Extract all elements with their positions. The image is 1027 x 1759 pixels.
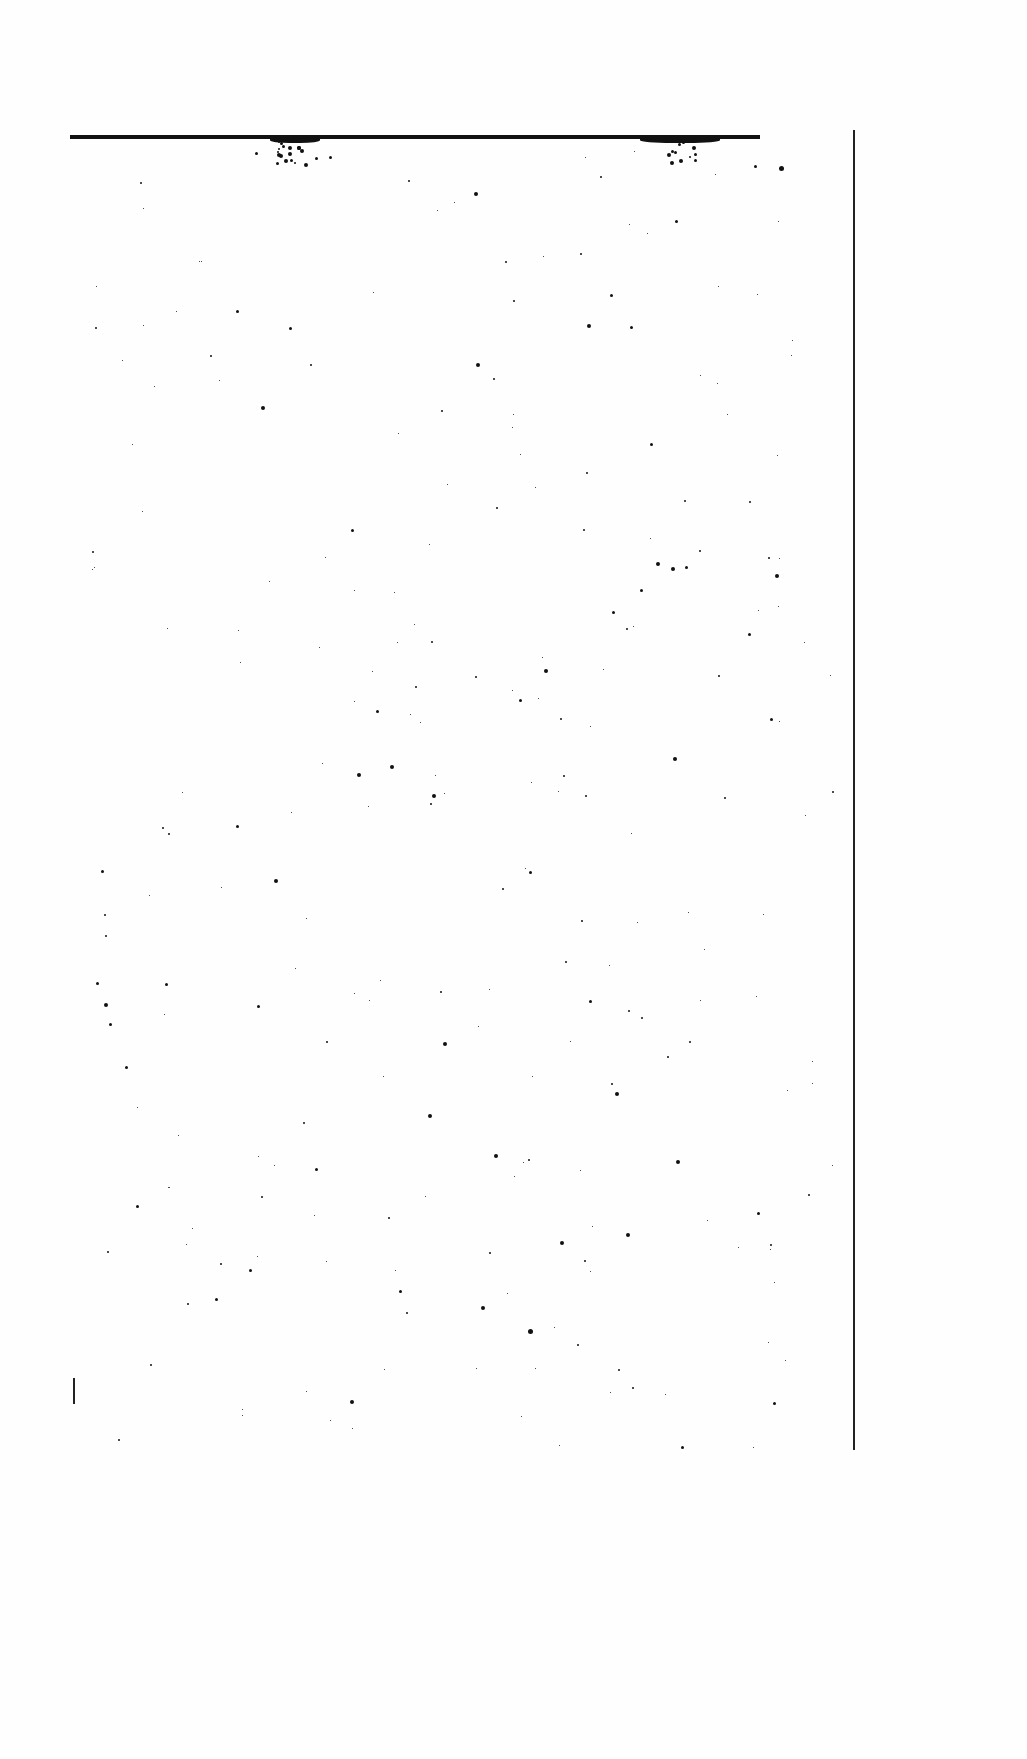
noise-speck xyxy=(261,1196,263,1198)
noise-speck xyxy=(538,698,539,699)
noise-speck xyxy=(560,1241,564,1245)
noise-speck xyxy=(368,806,369,807)
noise-speck xyxy=(168,833,170,835)
noise-speck xyxy=(700,375,701,376)
noise-speck xyxy=(519,699,522,702)
noise-speck xyxy=(529,871,532,874)
noise-speck xyxy=(398,433,399,434)
noise-speck xyxy=(414,624,415,625)
noise-speck xyxy=(631,833,632,834)
noise-speck xyxy=(315,157,318,160)
noise-speck xyxy=(95,327,97,329)
noise-speck xyxy=(351,529,354,532)
noise-speck xyxy=(650,538,651,539)
noise-speck xyxy=(804,642,805,643)
noise-speck xyxy=(812,1061,813,1062)
noise-speck xyxy=(164,1014,165,1015)
noise-speck xyxy=(329,156,332,159)
noise-speck xyxy=(176,311,177,312)
noise-speck xyxy=(586,472,588,474)
noise-speck xyxy=(394,592,395,593)
noise-speck xyxy=(583,529,585,531)
noise-speck xyxy=(303,1122,305,1124)
noise-speck xyxy=(665,1394,666,1395)
noise-speck xyxy=(192,1228,193,1229)
noise-speck xyxy=(718,675,720,677)
noise-speck xyxy=(425,1196,426,1197)
noise-speck xyxy=(290,159,293,162)
noise-speck xyxy=(600,176,602,178)
noise-speck xyxy=(630,326,633,329)
noise-speck xyxy=(92,551,94,553)
noise-speck xyxy=(169,1187,170,1188)
noise-speck xyxy=(542,657,543,658)
noise-speck xyxy=(289,327,292,330)
noise-speck xyxy=(689,156,691,158)
noise-speck xyxy=(560,718,562,720)
noise-speck xyxy=(104,1003,108,1007)
noise-speck xyxy=(149,895,150,896)
noise-speck xyxy=(694,153,697,156)
noise-speck xyxy=(428,1114,432,1118)
noise-speck xyxy=(319,647,320,648)
noise-speck xyxy=(628,1010,630,1012)
noise-speck xyxy=(372,671,373,672)
noise-speck xyxy=(494,1154,498,1158)
noise-speck xyxy=(580,1170,581,1171)
noise-speck xyxy=(118,1439,120,1441)
noise-speck xyxy=(122,360,123,361)
noise-speck xyxy=(667,153,671,157)
noise-speck xyxy=(684,500,686,502)
noise-speck xyxy=(165,983,168,986)
noise-speck xyxy=(354,701,355,702)
noise-speck xyxy=(512,690,513,691)
noise-speck xyxy=(210,355,212,357)
noise-speck xyxy=(238,630,239,631)
noise-speck xyxy=(674,151,677,154)
ink-bleed xyxy=(640,136,720,143)
noise-speck xyxy=(520,454,521,455)
noise-speck xyxy=(105,935,107,937)
noise-speck xyxy=(476,1368,477,1369)
noise-speck xyxy=(528,1159,530,1161)
noise-speck xyxy=(525,868,526,869)
noise-speck xyxy=(778,221,779,222)
noise-speck xyxy=(544,669,548,673)
noise-speck xyxy=(282,145,285,148)
noise-speck xyxy=(430,803,432,805)
noise-speck xyxy=(137,1107,138,1108)
noise-speck xyxy=(679,159,683,163)
noise-speck xyxy=(554,1327,555,1328)
noise-speck xyxy=(322,763,323,764)
noise-speck xyxy=(399,1290,402,1293)
noise-speck xyxy=(667,1056,669,1058)
noise-speck xyxy=(354,590,355,591)
noise-speck xyxy=(528,1329,533,1334)
noise-speck xyxy=(350,1400,354,1404)
noise-speck xyxy=(507,1293,508,1294)
noise-speck xyxy=(724,797,726,799)
noise-speck xyxy=(688,912,689,913)
noise-speck xyxy=(162,827,164,829)
noise-speck xyxy=(523,1162,524,1163)
noise-speck xyxy=(634,151,635,152)
noise-speck xyxy=(656,562,660,566)
noise-speck xyxy=(610,1392,611,1393)
noise-speck xyxy=(201,261,202,262)
noise-speck xyxy=(715,174,716,175)
noise-speck xyxy=(373,292,374,293)
noise-speck xyxy=(629,224,630,225)
noise-speck xyxy=(558,791,559,792)
noise-speck xyxy=(489,1252,491,1254)
noise-speck xyxy=(94,567,95,568)
noise-speck xyxy=(532,1076,533,1077)
noise-speck xyxy=(792,340,793,341)
noise-speck xyxy=(96,286,97,287)
noise-speck xyxy=(182,792,183,793)
noise-speck xyxy=(805,815,806,816)
noise-speck xyxy=(650,443,653,446)
noise-speck xyxy=(832,791,834,793)
noise-speck xyxy=(444,793,445,794)
noise-speck xyxy=(376,710,379,713)
noise-speck xyxy=(812,1083,813,1084)
